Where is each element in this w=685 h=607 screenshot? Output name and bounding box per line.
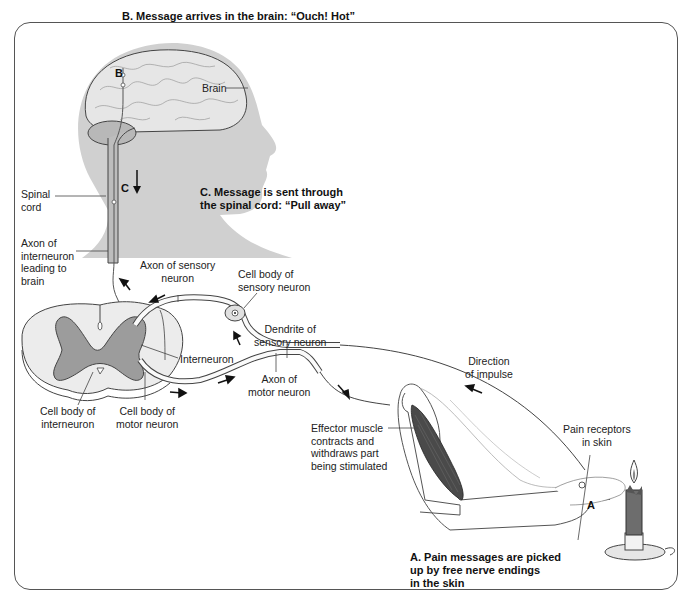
label-axon-sensory: Axon of sensory neuron — [140, 259, 215, 284]
label-cell-body-sensory: Cell body of sensory neuron — [238, 268, 310, 293]
reflex-arc-illustration — [0, 0, 685, 607]
candle — [605, 460, 675, 560]
label-effector-muscle: Effector muscle contracts and withdraws … — [311, 422, 387, 472]
letter-c: C — [121, 182, 129, 194]
label-brain: Brain — [202, 82, 227, 95]
caption-a: A. Pain messages are picked up by free n… — [410, 551, 561, 590]
caption-b: B. Message arrives in the brain: “Ouch! … — [122, 10, 355, 23]
letter-b: B — [115, 67, 123, 79]
label-cell-body-motor: Cell body of motor neuron — [116, 405, 178, 430]
letter-a: A — [587, 499, 595, 511]
label-direction-impulse: Direction of impulse — [465, 355, 513, 380]
label-dendrite-sensory: Dendrite of sensory neuron — [254, 323, 326, 348]
caption-c: C. Message is sent through the spinal co… — [200, 186, 346, 212]
label-interneuron: Interneuron — [180, 353, 234, 366]
label-spinal-cord: Spinal cord — [21, 188, 50, 213]
label-cell-body-interneuron: Cell body of interneuron — [40, 405, 95, 430]
label-pain-receptors: Pain receptors in skin — [563, 423, 631, 448]
label-axon-motor: Axon of motor neuron — [248, 373, 310, 398]
label-axon-interneuron: Axon of interneuron leading to brain — [21, 237, 74, 287]
